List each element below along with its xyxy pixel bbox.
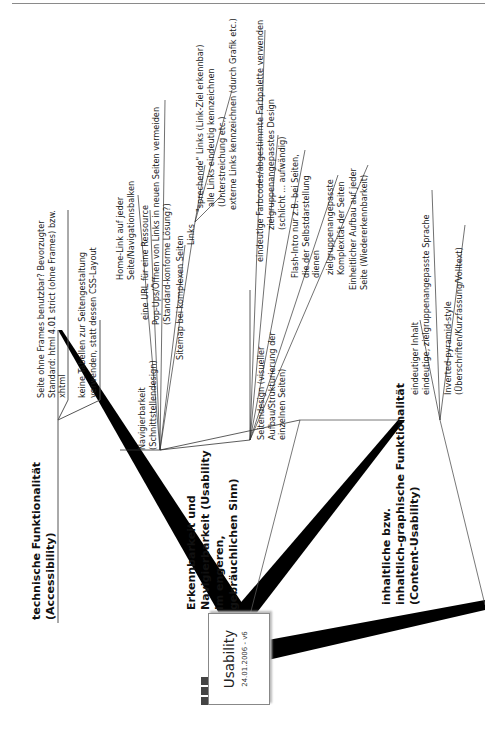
node-line: zielgruppenangepasstes Design xyxy=(266,99,277,230)
node-line: Flash-Intro nur z.B. bei Seiten, xyxy=(290,154,301,278)
root-node[interactable]: Usability 24.01.2006 - v6 xyxy=(208,613,270,705)
node-einheitlicher-aufbau[interactable]: Einheitlicher Aufbau auf jeder Seite (Wi… xyxy=(348,168,369,290)
node-flash-intro[interactable]: Flash-Intro nur z.B. bei Seiten, die der… xyxy=(290,154,322,278)
node-links-kennzeichnen[interactable]: alle Links eindeutig kennzeichnen (Unter… xyxy=(206,68,227,207)
mind-map: Usability 24.01.2006 - v6 technische Fun… xyxy=(0,0,485,750)
node-line: Seite/Navigationsbalken xyxy=(126,181,137,280)
node-line: (Unterstreichung etc.) xyxy=(217,68,228,207)
note-icon xyxy=(201,687,208,695)
branch-title-line: (Content-Usability) xyxy=(408,383,422,605)
node-links[interactable]: Links xyxy=(186,224,197,245)
node-one-url[interactable]: eine URL für eine Ressource xyxy=(140,205,151,320)
node-line: zielgruppenangepasste xyxy=(325,179,336,275)
node-seitendesign[interactable]: Seitendesign (visueller Aufbau/Strukturi… xyxy=(256,332,288,440)
node-line: Standard: html 4.01 strict (ohne Frames)… xyxy=(47,210,58,398)
branch-title-line: inhaltliche bzw. xyxy=(380,383,394,605)
node-line: Navigierbarkeit xyxy=(137,360,148,450)
node-line: Seite ohne Frames benutzbar? Bevorzugter xyxy=(36,210,47,398)
node-line: (Standard-konforme Lösung?) xyxy=(162,107,173,325)
node-line: eindeutiger Inhalt xyxy=(410,322,421,395)
node-zielgruppen-design[interactable]: zielgruppenangepasstes Design (schlicht … xyxy=(266,99,287,230)
node-line: keine Tabellen zur Seitengestaltung xyxy=(77,247,88,398)
branch-title-line: Erkennbarkeit und xyxy=(185,450,199,610)
node-line: eindeutige, zielgruppenangepasste Sprach… xyxy=(421,214,432,395)
node-navigierbarkeit[interactable]: Navigierbarkeit (Schnittstellendesign) xyxy=(137,360,158,450)
branch-title-line: gebräuchlichen Sinn) xyxy=(227,450,241,610)
node-komplexitaet[interactable]: zielgruppenangepasste Komplexität der Se… xyxy=(325,179,346,275)
node-popups[interactable]: Pop-Ups/Öffnen von Links in neuen Seiten… xyxy=(151,107,172,325)
branch-title-line: Navigierbarkeit (Usability xyxy=(199,450,213,610)
branch-content-usability[interactable]: inhaltliche bzw. inhaltlich-graphische F… xyxy=(380,383,422,605)
node-no-tables[interactable]: keine Tabellen zur Seitengestaltung verw… xyxy=(77,247,98,398)
node-line: Seite (Wiedererkennbarkeit) xyxy=(359,168,370,290)
branch-title-line: inhaltlich-graphische Funktionalität xyxy=(394,383,408,605)
node-line: Home-Link auf jeder xyxy=(115,181,126,280)
root-note-icons xyxy=(201,675,208,705)
node-farbcodes[interactable]: eindeutige Farbcodes/abgestimmte Farbpal… xyxy=(255,20,266,262)
node-line: Sitemap bei komplexen Seiten xyxy=(175,235,186,360)
node-line: einzelnen Seiten) xyxy=(277,332,288,440)
node-line: Links xyxy=(186,224,197,245)
node-line: Aufbau/Strukturierung der xyxy=(267,332,278,440)
node-sprechende-links[interactable]: "sprechende" Links (Link-Ziel erkennbar) xyxy=(195,45,206,212)
node-line: die der Selbstdarstellung xyxy=(301,154,312,278)
node-sitemap[interactable]: Sitemap bei komplexen Seiten xyxy=(175,235,186,360)
branch-title-line: technische Funktionalität xyxy=(30,462,44,620)
node-inverted-pyramid[interactable]: Inverted-pyramid-style (Überschriften/Ku… xyxy=(443,247,464,395)
node-line: dienen xyxy=(311,154,322,278)
branch-title-line: im engeren, xyxy=(213,450,227,610)
node-frames[interactable]: Seite ohne Frames benutzbar? Bevorzugter… xyxy=(36,210,68,398)
node-externe-links[interactable]: externe Links kennzeichnen (durch Grafik… xyxy=(228,18,239,210)
branch-accessibility[interactable]: technische Funktionalität (Accessibility… xyxy=(30,462,58,620)
node-line: Einheitlicher Aufbau auf jeder xyxy=(348,168,359,290)
node-line: eine URL für eine Ressource xyxy=(140,205,151,320)
node-sprache[interactable]: eindeutige, zielgruppenangepasste Sprach… xyxy=(421,214,432,395)
node-line: Seitendesign (visueller xyxy=(256,332,267,440)
root-title: Usability xyxy=(221,614,237,704)
node-line: xhtml xyxy=(57,210,68,398)
root-date: 24.01.2006 - v6 xyxy=(241,614,249,704)
branch-erkennbarkeit[interactable]: Erkennbarkeit und Navigierbarkeit (Usabi… xyxy=(185,450,241,610)
node-line: eindeutige Farbcodes/abgestimmte Farbpal… xyxy=(255,20,266,262)
node-line: externe Links kennzeichnen (durch Grafik… xyxy=(228,18,239,210)
node-line: (Schnittstellendesign) xyxy=(148,360,159,450)
node-line: Komplexität der Seiten xyxy=(336,179,347,275)
node-line: "sprechende" Links (Link-Ziel erkennbar) xyxy=(195,45,206,212)
branch-title-line: (Accessibility) xyxy=(44,462,58,620)
node-line: alle Links eindeutig kennzeichnen xyxy=(206,68,217,207)
note-icon xyxy=(201,677,208,685)
node-eindeutiger-inhalt[interactable]: eindeutiger Inhalt xyxy=(410,322,421,395)
node-line: Inverted-pyramid-style xyxy=(443,247,454,395)
node-home-link[interactable]: Home-Link auf jeder Seite/Navigationsbal… xyxy=(115,181,136,280)
node-line: verwenden, statt dessen CSS-Layout xyxy=(88,247,99,398)
node-line: Pop-Ups/Öffnen von Links in neuen Seiten… xyxy=(151,107,162,325)
node-line: (Überschriften/Kurzfassung/Volltext) xyxy=(454,247,465,395)
note-icon xyxy=(201,697,208,705)
node-line: (schlicht ... aufwändig) xyxy=(277,99,288,230)
